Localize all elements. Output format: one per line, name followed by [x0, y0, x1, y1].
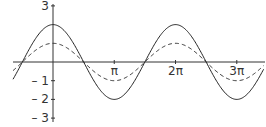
x-ticks: π2π3π [111, 60, 245, 78]
y-tick-label: – 2 [32, 92, 49, 106]
axes [13, 4, 265, 122]
cosine-chart: π2π3π 3– 1– 2– 3 [0, 0, 266, 127]
x-tick-label: π [111, 64, 118, 78]
y-tick-label: 3 [41, 0, 49, 13]
y-ticks: 3– 1– 2– 3 [32, 0, 55, 125]
y-tick-label: – 3 [32, 111, 49, 125]
y-tick-label: – 1 [32, 74, 49, 88]
x-tick-label: 2π [168, 64, 183, 78]
x-tick-label: 3π [229, 64, 244, 78]
